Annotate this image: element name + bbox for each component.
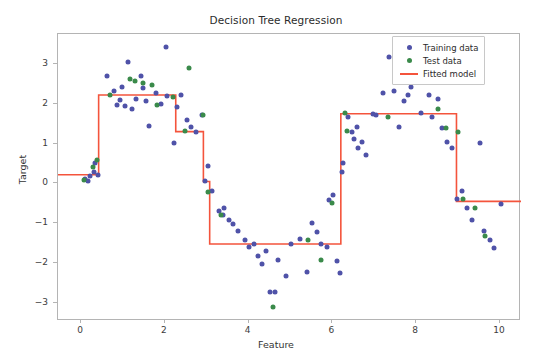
step-function-path [58, 95, 521, 244]
data-point [436, 96, 441, 101]
data-point [470, 218, 475, 223]
data-point [385, 114, 390, 119]
y-axis-label: Target [17, 140, 28, 200]
data-point [284, 273, 289, 278]
data-point [172, 140, 177, 145]
data-point [405, 92, 410, 97]
data-point [178, 92, 183, 97]
data-point [94, 158, 99, 163]
data-point [88, 174, 93, 179]
data-point [95, 172, 100, 177]
data-point [305, 269, 310, 274]
data-point [426, 92, 431, 97]
data-point [81, 178, 86, 183]
data-point [123, 103, 128, 108]
data-point [487, 238, 492, 243]
data-point [409, 85, 414, 90]
data-point [275, 258, 280, 263]
data-point [188, 124, 193, 129]
data-point [130, 106, 135, 111]
y-tick-label: 1 [26, 138, 48, 148]
data-point [492, 246, 497, 251]
training-dot-icon [398, 45, 420, 50]
data-point [396, 124, 401, 129]
data-point [343, 110, 348, 115]
y-tick-label: −3 [26, 297, 48, 307]
data-point [260, 261, 265, 266]
data-point [346, 114, 351, 119]
data-point [363, 152, 368, 157]
test-dot-icon [398, 58, 420, 63]
data-point [461, 197, 466, 202]
data-point [436, 106, 441, 111]
data-point [356, 146, 361, 151]
data-point [324, 245, 329, 250]
data-point [472, 206, 477, 211]
data-point [334, 259, 339, 264]
data-point [430, 114, 435, 119]
y-tick-label: 3 [26, 58, 48, 68]
data-point [443, 126, 448, 131]
data-point [115, 102, 120, 107]
data-point [352, 136, 357, 141]
data-point [193, 129, 198, 134]
data-point [289, 242, 294, 247]
data-point [318, 258, 323, 263]
legend-item: Fitted model [398, 67, 478, 80]
legend-label: Training data [420, 43, 478, 53]
data-point [460, 188, 465, 193]
data-point [318, 242, 323, 247]
x-tick-label: 8 [412, 325, 418, 335]
data-point [205, 163, 210, 168]
data-point [270, 305, 275, 310]
data-point [359, 139, 364, 144]
data-point [450, 145, 455, 150]
data-point [310, 221, 315, 226]
y-tick-label: −1 [26, 217, 48, 227]
x-tick-label: 4 [245, 325, 251, 335]
x-axis-label: Feature [0, 339, 552, 350]
data-point [90, 164, 95, 169]
data-point [153, 90, 158, 95]
data-point [218, 212, 223, 217]
data-point [477, 140, 482, 145]
data-point [498, 202, 503, 207]
data-point [132, 78, 137, 83]
fitted-line-icon [398, 73, 420, 75]
data-point [125, 59, 130, 64]
data-point [141, 85, 146, 90]
data-point [419, 110, 424, 115]
data-point [171, 94, 176, 99]
data-point [272, 289, 277, 294]
data-point [111, 89, 116, 94]
data-point [255, 254, 260, 259]
data-point [306, 238, 311, 243]
data-point [251, 242, 256, 247]
data-point [331, 192, 336, 197]
x-tick-label: 0 [77, 325, 83, 335]
data-point [374, 112, 379, 117]
data-point [380, 90, 385, 95]
data-point [133, 96, 138, 101]
data-point [155, 102, 160, 107]
data-point [138, 73, 143, 78]
data-point [187, 65, 192, 70]
y-tick-label: −2 [26, 257, 48, 267]
data-point [200, 112, 205, 117]
data-point [205, 190, 210, 195]
data-point [107, 92, 112, 97]
legend-item: Test data [398, 54, 478, 67]
data-point [314, 230, 319, 235]
data-point [150, 82, 155, 87]
y-tick-label: 2 [26, 98, 48, 108]
data-point [184, 118, 189, 123]
legend: Training data Test data Fitted model [392, 36, 485, 85]
data-point [344, 128, 349, 133]
data-point [222, 206, 227, 211]
data-point [445, 139, 450, 144]
data-point [455, 197, 460, 202]
y-tick-label: 0 [26, 177, 48, 187]
data-point [401, 98, 406, 103]
data-point [297, 237, 302, 242]
data-point [230, 222, 235, 227]
